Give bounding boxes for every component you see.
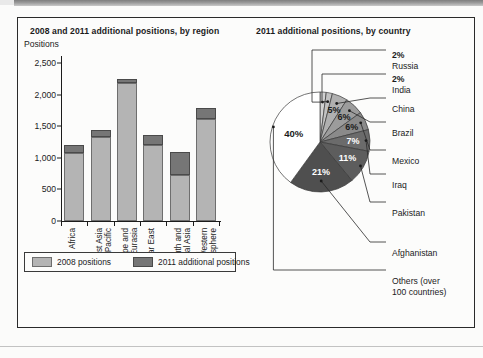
x-tick-mark bbox=[166, 222, 167, 226]
pie-chart-title: 2011 additional positions, by country bbox=[256, 26, 411, 36]
bar-segment-2011 bbox=[170, 152, 190, 176]
legend-label-2011: 2011 additional positions bbox=[158, 257, 250, 267]
y-tick-label: 2,000 bbox=[34, 90, 56, 100]
pie-label-country: Iraq bbox=[392, 180, 407, 191]
x-tick-mark bbox=[219, 222, 220, 226]
pie-chart: 2011 additional positions, by country 5%… bbox=[240, 26, 476, 316]
y-tick-mark bbox=[57, 189, 61, 190]
y-tick-mark bbox=[57, 157, 61, 158]
pie-slice-value: 6% bbox=[337, 112, 350, 122]
pie-leader-dot bbox=[359, 165, 362, 168]
bar-stack bbox=[170, 151, 190, 221]
bar-stack bbox=[143, 135, 163, 221]
x-tick-mark bbox=[61, 222, 62, 226]
x-tick-mark bbox=[193, 222, 194, 226]
pie-leader-dot bbox=[326, 100, 329, 103]
bar-stack bbox=[64, 145, 84, 221]
legend-item-2011: 2011 additional positions bbox=[133, 257, 250, 267]
bar-segment-2011 bbox=[117, 79, 137, 83]
y-tick-mark bbox=[57, 63, 61, 64]
y-tick-label: 1,500 bbox=[34, 121, 56, 131]
bar-chart-plot-area: 05001,0001,5002,0002,500 bbox=[61, 60, 219, 222]
legend-swatch-2011 bbox=[133, 257, 153, 267]
bar-chart-title: 2008 and 2011 additional positions, by r… bbox=[30, 26, 219, 36]
pie-label-percent: 2% bbox=[392, 50, 404, 61]
document-page: 2008 and 2011 additional positions, by r… bbox=[0, 0, 483, 358]
legend-swatch-2008 bbox=[32, 257, 52, 267]
y-tick-label: 500 bbox=[42, 184, 56, 194]
bar-segment-2008 bbox=[64, 153, 84, 221]
pie-slice-value: 6% bbox=[345, 122, 358, 132]
pie-slice-value: 21% bbox=[312, 167, 330, 177]
y-tick-mark bbox=[57, 94, 61, 95]
bar-chart: 2008 and 2011 additional positions, by r… bbox=[24, 26, 234, 316]
y-axis-line bbox=[61, 56, 62, 222]
pie-leader-dot bbox=[348, 109, 351, 112]
bar-stack bbox=[196, 108, 216, 221]
bar-chart-legend: 2008 positions 2011 additional positions bbox=[24, 252, 236, 272]
bar-stack bbox=[117, 79, 137, 221]
pie-slice-value: 7% bbox=[346, 136, 359, 146]
bar-segment-2011 bbox=[143, 135, 163, 145]
pie-label-country: Afghanistan bbox=[392, 248, 437, 259]
pie-slice-value: 40% bbox=[284, 128, 304, 139]
bar-chart-y-axis-label: Positions bbox=[24, 39, 59, 49]
pie-label-country: Brazil bbox=[392, 128, 414, 139]
bar-segment-2008 bbox=[196, 119, 216, 221]
x-tick-mark bbox=[140, 222, 141, 226]
pie-leader-dot bbox=[320, 180, 323, 183]
y-tick-label: 0 bbox=[51, 216, 56, 226]
bar-segment-2011 bbox=[64, 145, 84, 153]
x-tick-mark bbox=[87, 222, 88, 226]
pie-leader-dot bbox=[335, 102, 338, 105]
page-bottom-rule bbox=[0, 346, 483, 347]
pie-label-country: India bbox=[392, 85, 411, 96]
bar-segment-2011 bbox=[91, 130, 111, 137]
y-tick-label: 2,500 bbox=[34, 58, 56, 68]
x-tick-mark bbox=[114, 222, 115, 226]
bar-segment-2011 bbox=[196, 108, 216, 119]
pie-chart-graphic: 5%6%6%7%11%21%40% bbox=[240, 26, 476, 306]
x-axis-label: Africa bbox=[68, 228, 77, 249]
pie-leader-dot bbox=[272, 126, 275, 129]
pie-label-country: Others (over 100 countries) bbox=[392, 276, 446, 298]
y-tick-mark bbox=[57, 126, 61, 127]
bar-segment-2008 bbox=[170, 175, 190, 221]
legend-label-2008: 2008 positions bbox=[57, 257, 111, 267]
pie-label-percent: 2% bbox=[392, 74, 404, 85]
pie-label-country: China bbox=[392, 104, 414, 115]
bar-segment-2008 bbox=[91, 137, 111, 221]
bar-segment-2008 bbox=[143, 145, 163, 221]
y-tick-label: 1,000 bbox=[34, 153, 56, 163]
bar-segment-2008 bbox=[117, 83, 137, 221]
legend-item-2008: 2008 positions bbox=[32, 257, 111, 267]
pie-label-country: Russia bbox=[392, 61, 418, 72]
pie-label-country: Mexico bbox=[392, 156, 419, 167]
scan-top-strip bbox=[14, 0, 483, 6]
pie-leader-dot bbox=[365, 139, 368, 142]
bar-stack bbox=[91, 130, 111, 221]
pie-leader-line bbox=[361, 166, 387, 202]
pie-label-country: Pakistan bbox=[392, 208, 425, 219]
pie-leader-dot bbox=[359, 121, 362, 124]
pie-slice-value: 11% bbox=[339, 153, 357, 163]
